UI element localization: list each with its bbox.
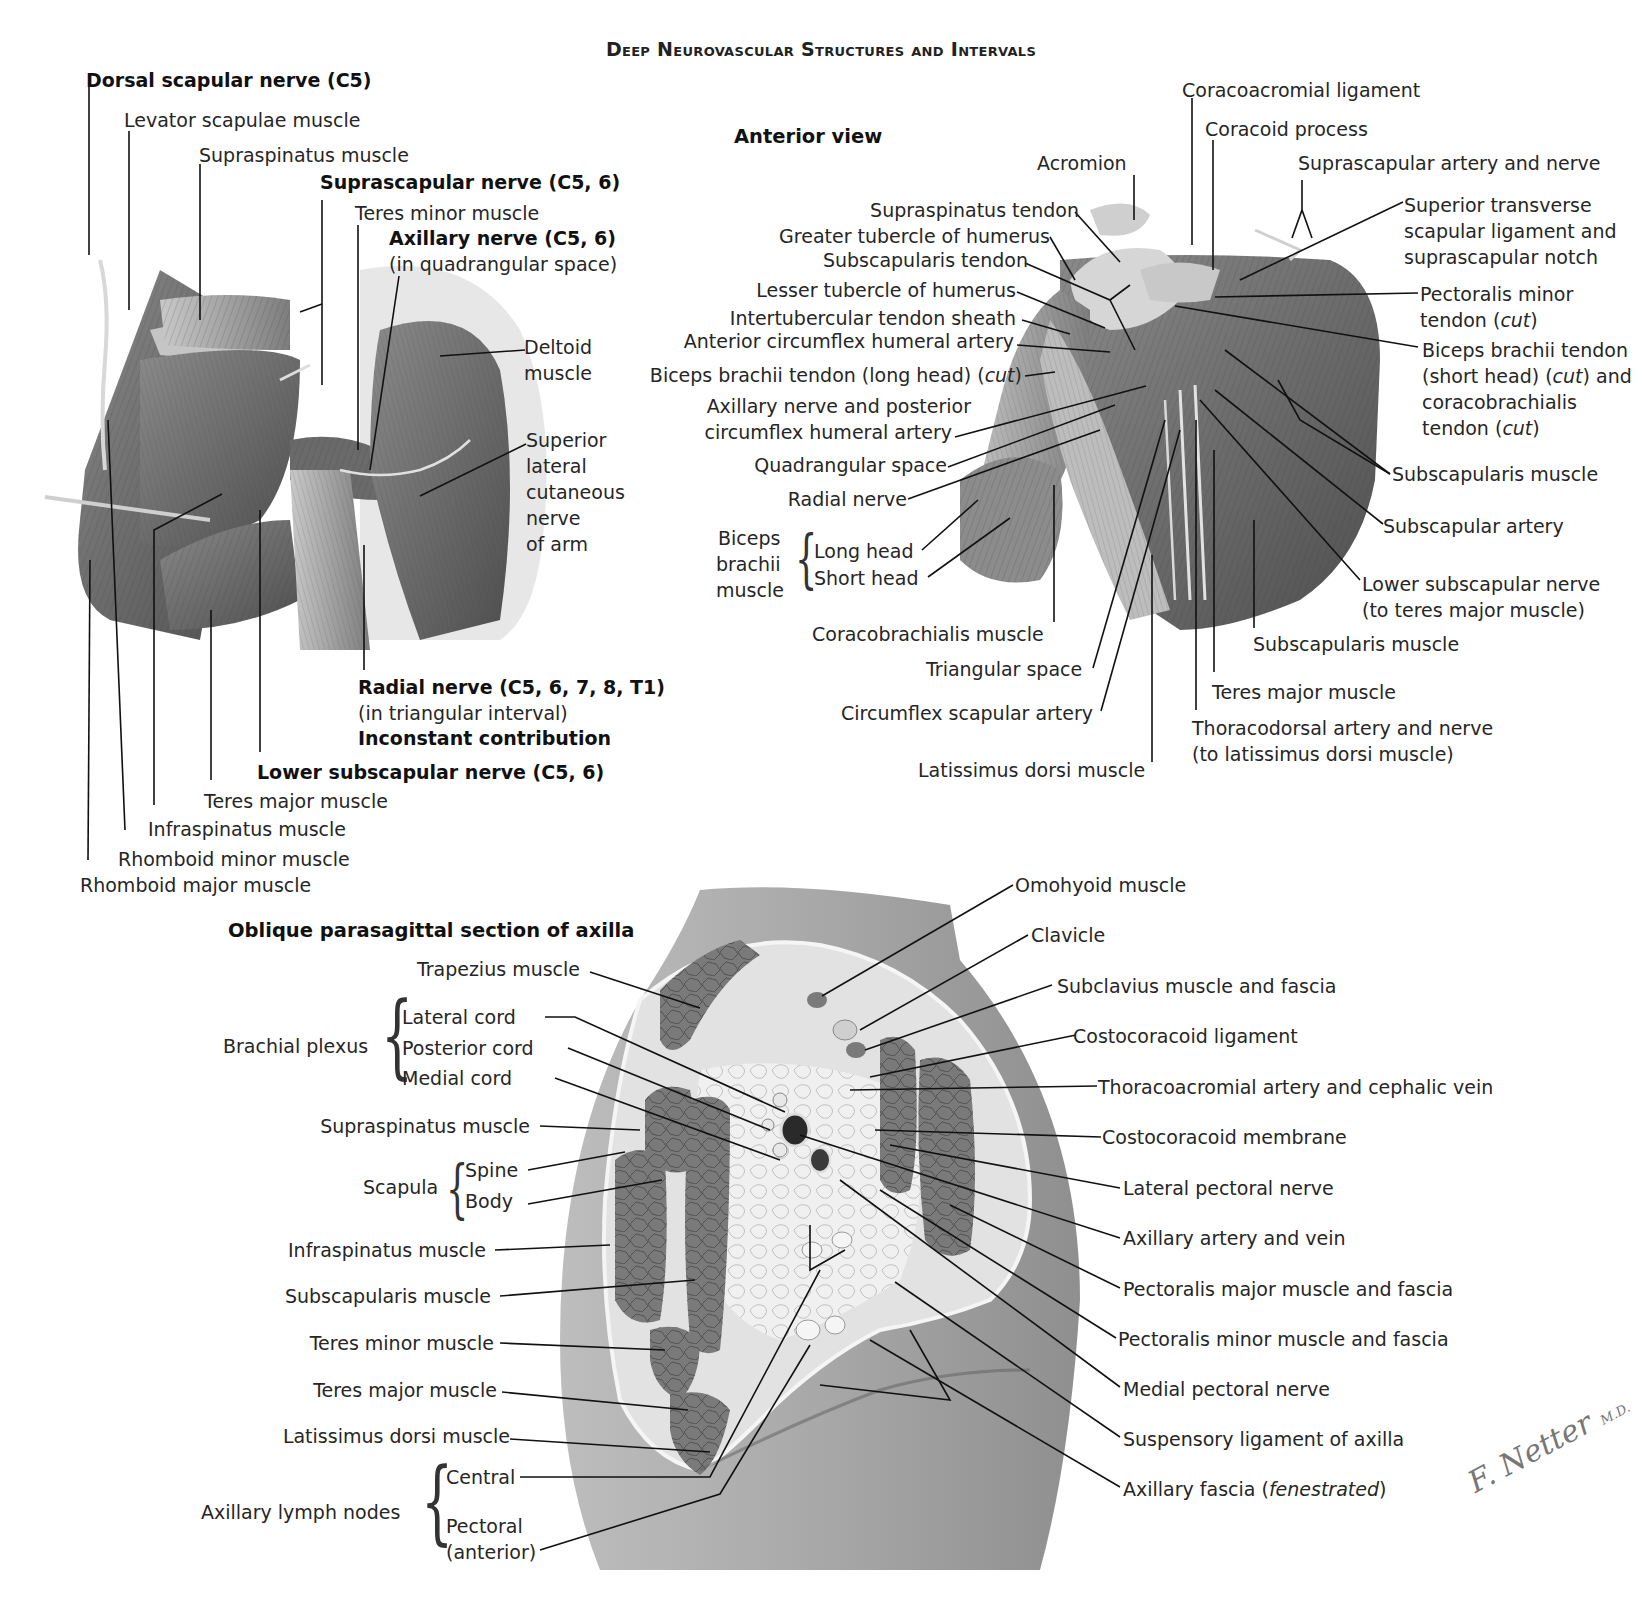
label-lesser-tubercle: Lesser tubercle of humerus <box>756 278 1016 302</box>
label-biceps-group-2: brachii <box>716 552 781 576</box>
label-posterior-cord: Posterior cord <box>402 1036 534 1060</box>
label-quadrangular-space: Quadrangular space <box>754 453 947 477</box>
label-sup-transverse-3: suprascapular notch <box>1404 245 1598 269</box>
label-axillary-lymph-nodes: Axillary lymph nodes <box>201 1500 400 1524</box>
label-central: Central <box>446 1465 515 1489</box>
label-subscapularis-tendon: Subscapularis tendon <box>823 248 1028 272</box>
and-text: ) and <box>1583 365 1632 387</box>
label-spine: Spine <box>465 1158 518 1182</box>
label-pectoral-2: (anterior) <box>446 1540 536 1564</box>
label-slcn-4: nerve <box>526 506 580 530</box>
label-radial-nerve: Radial nerve (C5, 6, 7, 8, T1) <box>358 675 665 699</box>
axillary-fascia-text: Axillary fascia ( <box>1123 1478 1269 1500</box>
label-medial-pectoral-nerve: Medial pectoral nerve <box>1123 1377 1330 1401</box>
label-supraspinatus-axilla: Supraspinatus muscle <box>320 1114 530 1138</box>
label-axillary-nerve: Axillary nerve (C5, 6) <box>389 226 616 250</box>
label-levator-scapulae: Levator scapulae muscle <box>124 108 360 132</box>
label-axillary-posterior-1: Axillary nerve and posterior <box>707 394 971 418</box>
label-pec-minor-fascia: Pectoralis minor muscle and fascia <box>1118 1327 1449 1351</box>
label-medial-cord: Medial cord <box>402 1066 512 1090</box>
label-lower-subscapular-1: Lower subscapular nerve <box>1362 572 1600 596</box>
label-teres-major: Teres major muscle <box>204 789 388 813</box>
label-supraspinatus-tendon: Supraspinatus tendon <box>870 198 1079 222</box>
label-teres-minor: Teres minor muscle <box>355 201 539 225</box>
label-deltoid-2: muscle <box>524 361 592 385</box>
label-long-head: Long head <box>814 539 913 563</box>
label-greater-tubercle: Greater tubercle of humerus <box>779 224 1050 248</box>
label-suspensory-ligament: Suspensory ligament of axilla <box>1123 1427 1404 1451</box>
label-lower-subscapular-nerve: Lower subscapular nerve (C5, 6) <box>257 760 604 784</box>
label-biceps-long-tendon: Biceps brachii tendon (long head) (cut) <box>650 363 1022 387</box>
label-biceps-group-1: Biceps <box>718 526 780 550</box>
label-teres-major-axilla: Teres major muscle <box>313 1378 497 1402</box>
paren-close: ) <box>1015 364 1022 386</box>
label-axillary-posterior-2: circumflex humeral artery <box>705 420 952 444</box>
label-slcn-2: lateral <box>526 454 587 478</box>
label-biceps-short-3: coracobrachialis <box>1422 390 1577 414</box>
label-costocoracoid-membrane: Costocoracoid membrane <box>1102 1125 1347 1149</box>
label-axillary-artery-vein: Axillary artery and vein <box>1123 1226 1346 1250</box>
label-suprascapular-artery-nerve: Suprascapular artery and nerve <box>1298 151 1600 175</box>
label-latissimus-dorsi-anterior: Latissimus dorsi muscle <box>918 758 1145 782</box>
paren-close: ) <box>1530 309 1537 331</box>
anterior-view-subtitle: Anterior view <box>734 125 882 148</box>
label-biceps-short-4: tendon (cut) <box>1422 416 1540 440</box>
label-subscapularis-muscle-upper: Subscapularis muscle <box>1392 462 1598 486</box>
label-radial-nerve-anterior: Radial nerve <box>788 487 907 511</box>
page-title: Deep Neurovascular Structures and Interv… <box>0 38 1642 60</box>
cut-italic: cut <box>1502 417 1532 439</box>
label-coracoid-process: Coracoid process <box>1205 117 1368 141</box>
posterior-shoulder-illustration <box>45 260 547 650</box>
label-deltoid-1: Deltoid <box>524 335 592 359</box>
biceps-short-text: (short head) ( <box>1422 365 1553 387</box>
label-anterior-circumflex-humeral-artery: Anterior circumflex humeral artery <box>684 329 1014 353</box>
label-sup-transverse-2: scapular ligament and <box>1404 219 1617 243</box>
label-radial-nerve-note: (in triangular interval) <box>358 701 568 725</box>
label-slcn-3: cutaneous <box>526 480 625 504</box>
label-body: Body <box>465 1189 513 1213</box>
label-sup-transverse-1: Superior transverse <box>1404 193 1592 217</box>
label-subscapular-artery: Subscapular artery <box>1383 514 1564 538</box>
label-biceps-short-2: (short head) (cut) and <box>1422 364 1632 388</box>
axilla-section-illustration <box>560 887 1080 1570</box>
paren-close: ) <box>1379 1478 1386 1500</box>
label-acromion: Acromion <box>1037 151 1127 175</box>
cut-italic: cut <box>985 364 1015 386</box>
label-trapezius: Trapezius muscle <box>417 957 580 981</box>
label-pectoral-1: Pectoral <box>446 1514 523 1538</box>
cut-italic: cut <box>1500 309 1530 331</box>
label-clavicle: Clavicle <box>1031 923 1105 947</box>
label-short-head: Short head <box>814 566 918 590</box>
label-triangular-space: Triangular space <box>926 657 1082 681</box>
label-lateral-cord: Lateral cord <box>402 1005 516 1029</box>
label-coracobrachialis: Coracobrachialis muscle <box>812 622 1044 646</box>
label-latissimus-dorsi-axilla: Latissimus dorsi muscle <box>283 1424 510 1448</box>
fenestrated-italic: fenestrated <box>1269 1478 1379 1500</box>
label-subscapularis-axilla: Subscapularis muscle <box>285 1284 491 1308</box>
label-costocoracoid-ligament: Costocoracoid ligament <box>1073 1024 1298 1048</box>
paren-close: ) <box>1532 417 1539 439</box>
label-intertubercular-sheath: Intertubercular tendon sheath <box>730 306 1016 330</box>
label-teres-major-anterior: Teres major muscle <box>1212 680 1396 704</box>
label-subclavius: Subclavius muscle and fascia <box>1057 974 1336 998</box>
label-pec-minor-1: Pectoralis minor <box>1420 282 1573 306</box>
label-lower-subscapular-2: (to teres major muscle) <box>1362 598 1585 622</box>
label-infraspinatus-axilla: Infraspinatus muscle <box>288 1238 486 1262</box>
label-axillary-fascia: Axillary fascia (fenestrated) <box>1123 1477 1386 1501</box>
label-biceps-group-3: muscle <box>716 578 784 602</box>
label-dorsal-scapular-nerve: Dorsal scapular nerve (C5) <box>86 68 372 92</box>
label-pec-major-fascia: Pectoralis major muscle and fascia <box>1123 1277 1453 1301</box>
label-omohyoid: Omohyoid muscle <box>1015 873 1186 897</box>
label-scapula: Scapula <box>363 1175 438 1199</box>
axilla-section-subtitle: Oblique parasagittal section of axilla <box>228 919 634 942</box>
label-teres-minor-axilla: Teres minor muscle <box>310 1331 494 1355</box>
label-thoracodorsal-1: Thoracodorsal artery and nerve <box>1192 716 1493 740</box>
tendon-text: tendon ( <box>1422 417 1502 439</box>
biceps-long-tendon-text: Biceps brachii tendon (long head) ( <box>650 364 985 386</box>
label-thoracoacromial: Thoracoacromial artery and cephalic vein <box>1098 1075 1493 1099</box>
label-infraspinatus: Infraspinatus muscle <box>148 817 346 841</box>
label-circumflex-scapular-artery: Circumflex scapular artery <box>841 701 1093 725</box>
label-brachial-plexus: Brachial plexus <box>223 1034 368 1058</box>
label-rhomboid-minor: Rhomboid minor muscle <box>118 847 350 871</box>
label-slcn-5: of arm <box>526 532 588 556</box>
